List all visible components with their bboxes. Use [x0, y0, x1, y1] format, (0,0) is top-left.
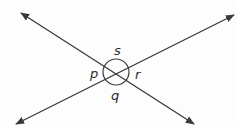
angle-circle: [103, 59, 129, 85]
line-a: [21, 13, 194, 124]
angle-label-p: p: [89, 66, 98, 81]
diagram-canvas: s p r q: [0, 0, 238, 127]
angle-label-r: r: [135, 67, 142, 82]
angle-label-s: s: [114, 43, 121, 58]
intersecting-lines-diagram: s p r q: [0, 0, 238, 127]
angle-label-q: q: [111, 88, 119, 103]
